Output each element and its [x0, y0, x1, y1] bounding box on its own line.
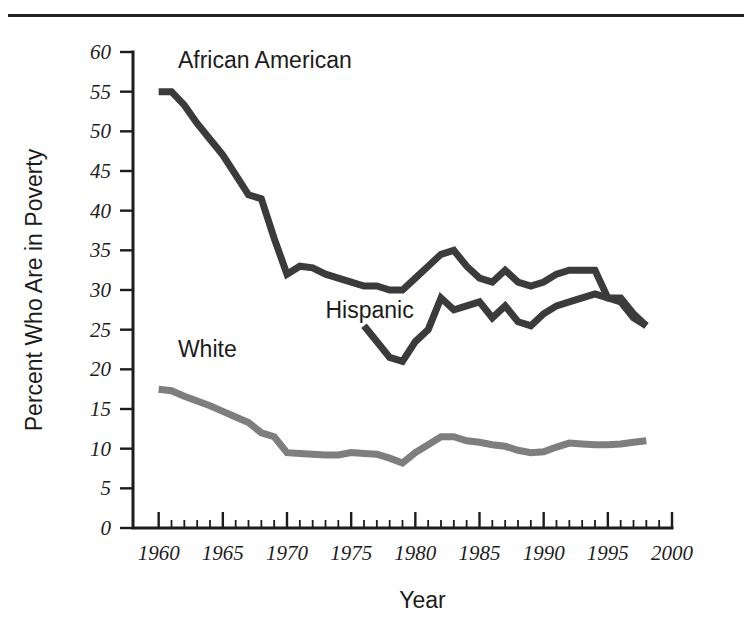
y-tick-label: 55 [90, 80, 111, 104]
y-tick-label: 30 [89, 278, 112, 302]
y-tick-label: 35 [89, 238, 111, 262]
y-tick-label: 20 [90, 357, 112, 381]
y-tick-label: 60 [90, 40, 112, 64]
series-line-white [159, 389, 647, 463]
y-axis-tick-labels: 051015202530354045505560 [89, 40, 112, 540]
poverty-rate-figure: 051015202530354045505560 196019651970197… [0, 0, 748, 637]
x-tick-label: 1970 [266, 541, 309, 565]
x-tick-label: 2000 [651, 541, 694, 565]
series-label-hispanic: Hispanic [326, 297, 414, 323]
x-tick-label: 1985 [459, 541, 501, 565]
x-axis-tick-group [159, 512, 672, 528]
y-tick-label: 0 [101, 516, 112, 540]
chart-canvas: 051015202530354045505560 196019651970197… [0, 0, 748, 637]
y-tick-label: 25 [90, 318, 111, 342]
y-axis-title: Percent Who Are in Poverty [21, 148, 47, 431]
y-axis-tick-group [120, 52, 133, 528]
x-tick-label: 1975 [330, 541, 372, 565]
series-line-african-american [159, 92, 647, 326]
y-tick-label: 15 [90, 397, 111, 421]
x-tick-label: 1965 [202, 541, 244, 565]
series-lines-group [159, 92, 647, 463]
x-tick-label: 1990 [523, 541, 566, 565]
series-label-white: White [178, 336, 237, 362]
x-axis-title: Year [399, 587, 446, 613]
x-axis-tick-labels: 196019651970197519801985199019952000 [138, 541, 694, 565]
x-tick-label: 1980 [394, 541, 437, 565]
y-tick-label: 45 [90, 159, 111, 183]
y-tick-label: 40 [90, 199, 112, 223]
series-label-african-american: African American [178, 47, 352, 73]
y-tick-label: 50 [90, 119, 112, 143]
y-tick-label: 5 [101, 476, 112, 500]
y-tick-label: 10 [90, 437, 112, 461]
series-inline-labels: African AmericanHispanicWhite [178, 47, 414, 363]
x-tick-label: 1960 [138, 541, 181, 565]
x-tick-label: 1995 [587, 541, 629, 565]
